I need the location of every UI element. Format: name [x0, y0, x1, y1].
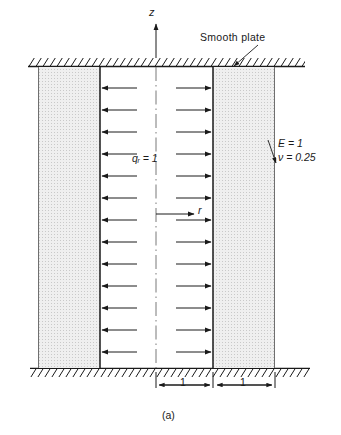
poisson-ratio-label: ν = 0.25 [278, 152, 316, 163]
load-arrows-right [176, 88, 211, 352]
r-axis-label: r [198, 205, 202, 216]
figure-caption: (a) [162, 410, 175, 421]
body-block-left [38, 67, 100, 368]
dimension-label-right: 1 [240, 377, 246, 388]
figure-diagram [0, 0, 341, 435]
load-label: qᵣ = 1 [132, 153, 158, 164]
smooth-plate-label: Smooth plate [200, 32, 265, 43]
body-block-right [213, 67, 275, 368]
smooth-plate-top [28, 58, 305, 67]
smooth-plate-bottom [30, 369, 310, 378]
youngs-modulus-label: E = 1 [278, 138, 303, 149]
load-arrows-left [102, 88, 137, 352]
z-axis-label: z [149, 7, 155, 18]
dimension-label-left: 1 [180, 377, 186, 388]
